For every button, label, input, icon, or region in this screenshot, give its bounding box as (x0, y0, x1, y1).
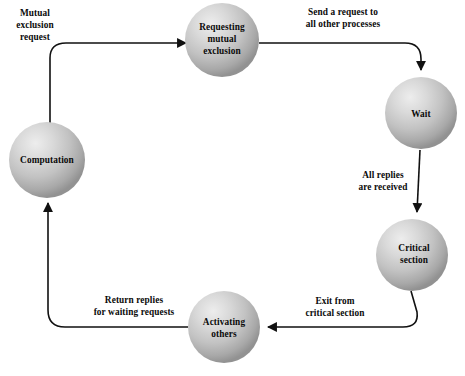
return-replies-line-1: Return replies (105, 295, 164, 305)
edge-label-exit-critical-section: Exit from critical section (305, 296, 365, 318)
exit-critical-section-line-2: critical section (305, 308, 365, 318)
computation-label: Computation (20, 155, 75, 165)
requesting-label-line-2: mutual (207, 34, 236, 44)
all-replies-line-2: are received (358, 182, 408, 192)
node-computation[interactable]: Computation (9, 122, 85, 198)
edge-label-mutual-exclusion-request: Mutual exclusion request (16, 8, 54, 42)
critical-section-label-line-1: Critical (398, 243, 430, 253)
edge-label-all-replies-received: All replies are received (358, 170, 408, 192)
node-critical-section[interactable]: Critical section (376, 219, 448, 291)
edge-label-send-request: Send a request to all other processes (306, 7, 381, 29)
critical-section-label-line-2: section (400, 255, 429, 265)
activating-others-sphere[interactable] (188, 291, 260, 363)
node-requesting-mutual-exclusion[interactable]: Requesting mutual exclusion (185, 3, 259, 77)
return-replies-line-2: for waiting requests (94, 307, 175, 317)
node-activating-others[interactable]: Activating others (188, 291, 260, 363)
activating-others-label-line-1: Activating (203, 317, 246, 327)
activating-others-label-line-2: others (211, 329, 237, 339)
send-request-line-1: Send a request to (308, 7, 378, 17)
requesting-label-line-3: exclusion (203, 46, 241, 56)
edge-wait-to-critical-section (417, 150, 420, 212)
state-diagram: Computation Requesting mutual exclusion … (0, 0, 465, 376)
all-replies-line-1: All replies (362, 170, 404, 180)
send-request-line-2: all other processes (306, 19, 381, 29)
node-wait[interactable]: Wait (385, 77, 457, 149)
edge-label-return-replies: Return replies for waiting requests (94, 295, 175, 317)
mutual-exclusion-request-line-3: request (20, 32, 51, 42)
wait-label: Wait (411, 109, 431, 119)
exit-critical-section-line-1: Exit from (315, 296, 354, 306)
edge-requesting-to-wait (259, 43, 421, 70)
edge-computation-to-requesting (50, 43, 186, 124)
diagram-canvas: Computation Requesting mutual exclusion … (0, 0, 465, 376)
mutual-exclusion-request-line-2: exclusion (16, 20, 54, 30)
mutual-exclusion-request-line-1: Mutual (20, 8, 50, 18)
requesting-label-line-1: Requesting (199, 22, 245, 32)
